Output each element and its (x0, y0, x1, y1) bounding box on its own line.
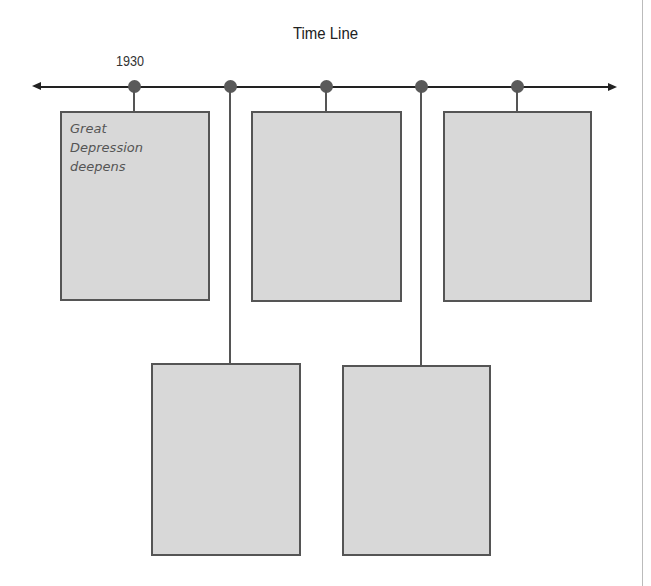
event-box-5[interactable] (443, 111, 592, 302)
page-edge-divider (642, 0, 643, 586)
event-box-2[interactable] (151, 363, 301, 556)
event-connector-5 (516, 90, 518, 112)
diagram-title: Time Line (39, 24, 612, 44)
arrow-right-icon (608, 83, 617, 91)
event-connector-2 (229, 90, 231, 364)
event-box-3[interactable] (251, 111, 402, 302)
event-connector-1 (133, 90, 135, 112)
event-box-1[interactable]: Great Depression deepens (60, 111, 210, 301)
event-box-4[interactable] (342, 365, 491, 556)
event-connector-3 (325, 90, 327, 112)
start-year-label: 1930 (116, 53, 144, 69)
event-text-1: Great Depression deepens (70, 119, 143, 176)
event-connector-4 (420, 90, 422, 366)
